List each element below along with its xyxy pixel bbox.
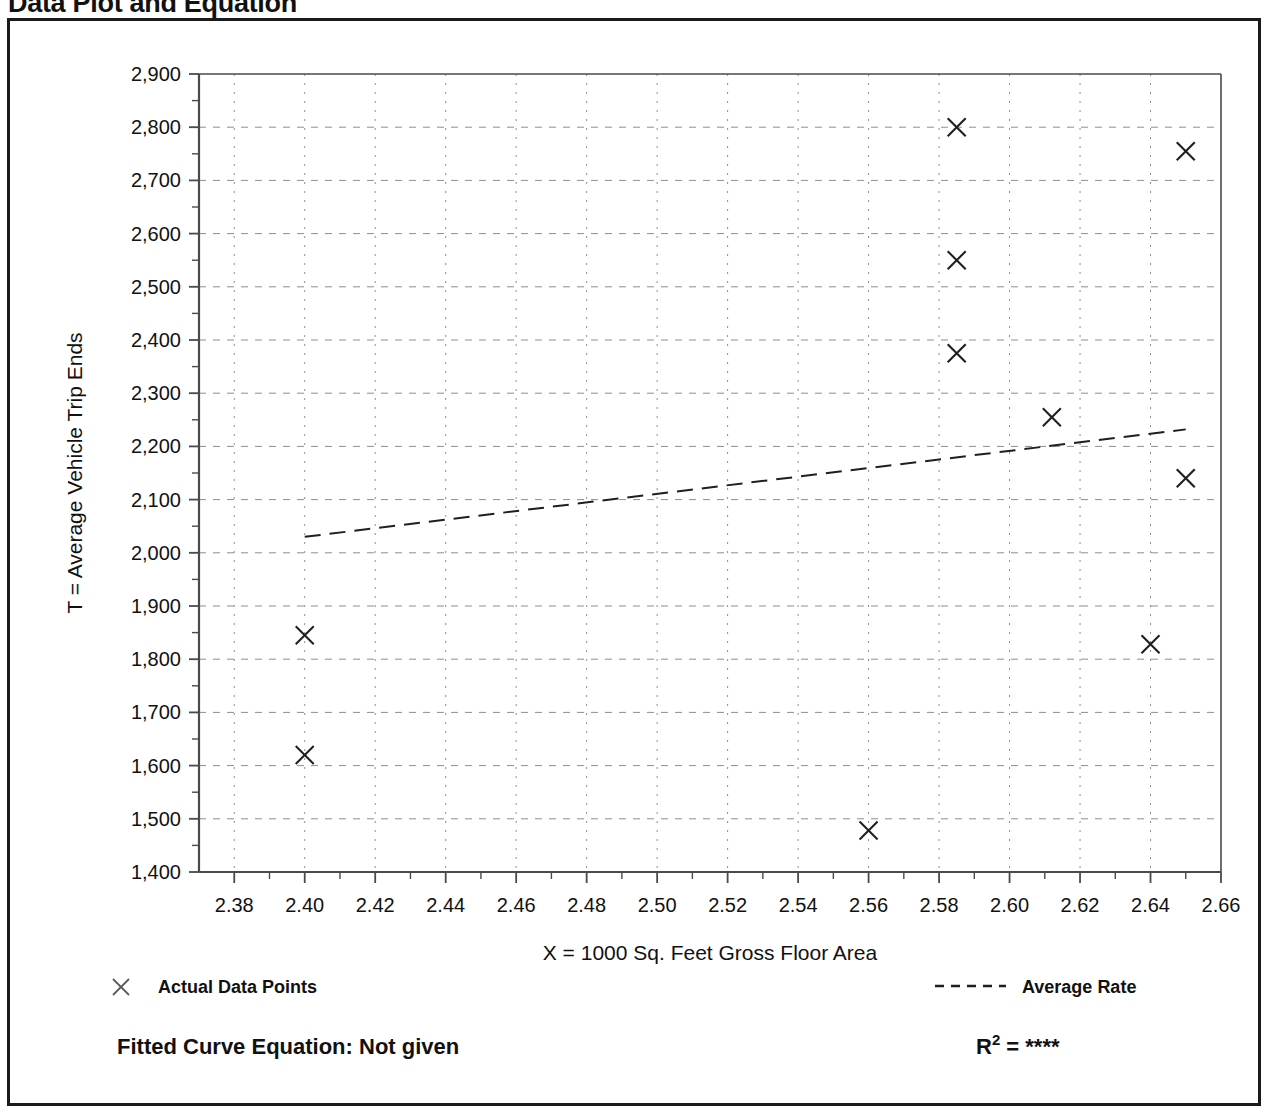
y-tick-label: 2,600 bbox=[131, 223, 181, 245]
x-tick-label: 2.48 bbox=[567, 894, 606, 916]
legend-group: Actual Data PointsAverage Rate bbox=[113, 977, 1136, 997]
page-title: Data Plot and Equation bbox=[8, 0, 297, 19]
y-tick-label: 1,500 bbox=[131, 808, 181, 830]
scatter-plot-svg: 1,4001,5001,6001,7001,8001,9002,0002,100… bbox=[10, 21, 1264, 1109]
x-tick-label: 2.52 bbox=[708, 894, 747, 916]
x-tick-label: 2.54 bbox=[779, 894, 818, 916]
data-point-marker bbox=[948, 344, 966, 362]
x-tick-label: 2.46 bbox=[497, 894, 536, 916]
y-tick-label: 2,500 bbox=[131, 276, 181, 298]
y-tick-labels-group: 1,4001,5001,6001,7001,8001,9002,0002,100… bbox=[131, 63, 181, 883]
x-tick-label: 2.58 bbox=[920, 894, 959, 916]
y-tick-label: 2,900 bbox=[131, 63, 181, 85]
data-points-group bbox=[296, 118, 1195, 839]
data-point-marker bbox=[296, 746, 314, 764]
y-tick-label: 2,400 bbox=[131, 329, 181, 351]
r-symbol: R bbox=[976, 1034, 992, 1059]
y-tick-label: 1,700 bbox=[131, 701, 181, 723]
plot-area-container: 1,4001,5001,6001,7001,8001,9002,0002,100… bbox=[10, 21, 1264, 1109]
legend-label-average-rate: Average Rate bbox=[1022, 977, 1136, 997]
r-value: **** bbox=[1025, 1034, 1060, 1059]
footer-group: Fitted Curve Equation: Not givenR2 = ***… bbox=[117, 1031, 1060, 1059]
data-point-marker bbox=[948, 251, 966, 269]
y-tick-label: 2,000 bbox=[131, 542, 181, 564]
data-point-marker bbox=[948, 118, 966, 136]
x-tick-label: 2.60 bbox=[990, 894, 1029, 916]
x-tick-label: 2.42 bbox=[356, 894, 395, 916]
x-tick-label: 2.64 bbox=[1131, 894, 1170, 916]
data-point-marker bbox=[1177, 142, 1195, 160]
data-point-marker bbox=[1177, 469, 1195, 487]
x-tick-label: 2.38 bbox=[215, 894, 254, 916]
r-squared-label: R2 = **** bbox=[976, 1031, 1060, 1059]
y-tick-label: 2,200 bbox=[131, 435, 181, 457]
figure-frame: 1,4001,5001,6001,7001,8001,9002,0002,100… bbox=[7, 18, 1261, 1106]
data-point-marker bbox=[1043, 408, 1061, 426]
x-tick-label: 2.66 bbox=[1202, 894, 1241, 916]
axes-group bbox=[199, 74, 1221, 872]
y-tick-label: 1,800 bbox=[131, 648, 181, 670]
tick-marks-group bbox=[189, 74, 1221, 883]
data-point-marker bbox=[860, 822, 878, 840]
legend-x-marker-icon bbox=[113, 979, 129, 995]
x-tick-label: 2.56 bbox=[849, 894, 888, 916]
y-tick-label: 2,800 bbox=[131, 116, 181, 138]
y-tick-label: 2,300 bbox=[131, 382, 181, 404]
gridlines-group bbox=[199, 74, 1221, 872]
axis-titles-group: X = 1000 Sq. Feet Gross Floor AreaT = Av… bbox=[63, 332, 878, 964]
chart-page: Data Plot and Equation 1,4001,5001,6001,… bbox=[0, 0, 1268, 1113]
y-tick-label: 1,900 bbox=[131, 595, 181, 617]
y-axis-title: T = Average Vehicle Trip Ends bbox=[63, 332, 86, 613]
y-tick-label: 1,600 bbox=[131, 755, 181, 777]
x-tick-label: 2.44 bbox=[426, 894, 465, 916]
x-tick-label: 2.40 bbox=[285, 894, 324, 916]
x-axis-title: X = 1000 Sq. Feet Gross Floor Area bbox=[543, 941, 878, 964]
x-tick-label: 2.62 bbox=[1061, 894, 1100, 916]
fitted-curve-equation-label: Fitted Curve Equation: Not given bbox=[117, 1034, 459, 1059]
average-rate-line bbox=[305, 429, 1186, 536]
average-rate-line-group bbox=[305, 429, 1186, 536]
r-exponent: 2 bbox=[992, 1031, 1000, 1048]
r-equals: = bbox=[1000, 1034, 1025, 1059]
y-tick-label: 1,400 bbox=[131, 861, 181, 883]
legend-label-actual-data-points: Actual Data Points bbox=[158, 977, 317, 997]
y-tick-label: 2,100 bbox=[131, 489, 181, 511]
x-tick-label: 2.50 bbox=[638, 894, 677, 916]
y-tick-label: 2,700 bbox=[131, 169, 181, 191]
x-tick-labels-group: 2.382.402.422.442.462.482.502.522.542.56… bbox=[215, 894, 1241, 916]
